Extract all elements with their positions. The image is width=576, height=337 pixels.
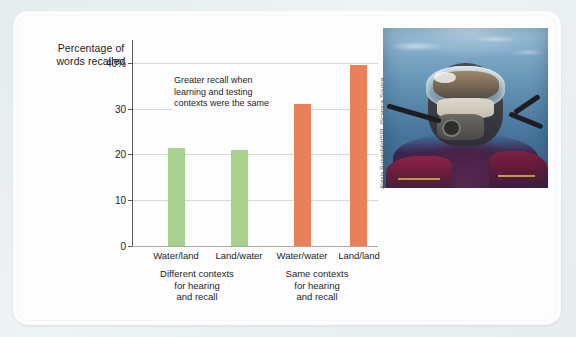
photo-block: Alexis Rosenfeld/SPL /Science Source [369, 26, 549, 189]
bar-land-land[interactable] [350, 65, 367, 246]
group-different-line3: and recall [142, 291, 252, 303]
tick-mark-40 [128, 63, 132, 64]
group-same-line2: for hearing [262, 280, 372, 292]
group-different-line2: for hearing [142, 280, 252, 292]
group-same-line3: and recall [262, 291, 372, 303]
x-tick-label-water-water: Water/water [277, 250, 328, 261]
y-axis-title-line1: Percentage of [36, 42, 146, 55]
group-caption-different-contexts: Different contexts for hearing and recal… [142, 268, 252, 303]
bar-water-water[interactable] [294, 104, 311, 246]
y-tick-label-20: 20 [115, 149, 126, 160]
annotation-line3: contexts were the same [174, 98, 292, 110]
x-tick-label-land-water: Land/water [215, 250, 262, 261]
y-tick-label-40: 40% [106, 57, 126, 68]
bar-land-water[interactable] [231, 150, 248, 246]
tick-mark-10 [128, 200, 132, 201]
y-axis-line [132, 40, 133, 246]
photo-vignette [383, 28, 548, 188]
group-caption-same-contexts: Same contexts for hearing and recall [262, 268, 372, 303]
annotation-line1: Greater recall when [174, 75, 292, 87]
group-different-line1: Different contexts [142, 268, 252, 280]
tick-mark-20 [128, 154, 132, 155]
y-axis-title-line2: words recalled [36, 55, 146, 68]
group-same-line1: Same contexts [262, 268, 372, 280]
tick-mark-0 [128, 246, 132, 247]
annotation-line2: learning and testing [174, 87, 292, 99]
y-tick-label-0: 0 [120, 241, 126, 252]
chart-annotation: Greater recall when learning and testing… [172, 74, 294, 111]
y-axis-title: Percentage of words recalled [36, 42, 146, 68]
page-background: Percentage of words recalled 40% 30 20 1… [0, 0, 576, 337]
x-tick-label-land-land: Land/land [338, 250, 380, 261]
scuba-diver-photo [383, 28, 548, 188]
x-tick-label-water-land: Water/land [153, 250, 199, 261]
y-tick-label-10: 10 [115, 195, 126, 206]
tick-mark-30 [128, 109, 132, 110]
bar-chart: Percentage of words recalled 40% 30 20 1… [14, 12, 394, 324]
x-axis-line [132, 246, 378, 247]
bar-water-land[interactable] [168, 148, 185, 246]
plot-area: 40% 30 20 10 0 Water/land Lan [132, 40, 378, 246]
figure-card: Percentage of words recalled 40% 30 20 1… [14, 12, 560, 324]
gridline-40 [133, 63, 378, 64]
y-tick-label-30: 30 [115, 103, 126, 114]
